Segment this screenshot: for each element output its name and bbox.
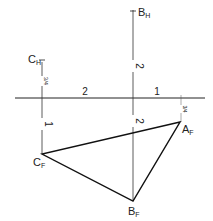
svg-text:1: 1 [43,121,54,127]
dim-horizontal-left: 2 [82,86,88,97]
label-c-f: CF [33,156,45,169]
dim-b-upper: 2 [128,60,145,72]
svg-text:3/4: 3/4 [182,106,188,113]
dim-c-lower: 1 [37,118,54,130]
dim-c-upper: 3/4 [38,76,49,86]
dim-horizontal-right: 1 [154,86,160,97]
dim-b-lower: 2 [128,115,145,127]
svg-text:3/4: 3/4 [43,77,49,86]
svg-text:2: 2 [134,118,145,124]
label-a-f: AF [182,123,194,136]
svg-text:2: 2 [134,63,145,69]
label-b-f: BF [128,205,140,218]
label-b-h: BH [138,6,150,19]
orthographic-projection-diagram: BH CH AF CF BF 2 1 2 2 3/4 1 3/4 [0,0,213,221]
dim-a-upper: 3/4 [176,105,188,113]
label-c-h: CH [28,53,41,66]
triangle-front-view [42,122,180,201]
